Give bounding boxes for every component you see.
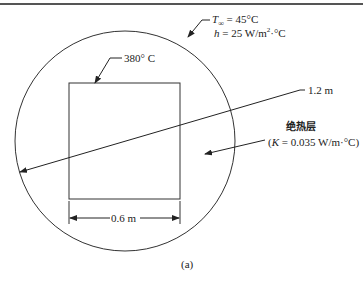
diameter-label: 1.2 m bbox=[308, 85, 333, 96]
surface-temp-label: 380° C bbox=[124, 53, 155, 64]
surface-temp-leader-arrow bbox=[95, 58, 122, 83]
width-label: 0.6 m bbox=[111, 213, 136, 224]
conductivity-label: (K = 0.035 W/m·°C) bbox=[268, 137, 359, 148]
insulation-label-cn: 绝热层 bbox=[286, 122, 316, 132]
figure-caption: (a) bbox=[181, 259, 193, 270]
t-inf-leader-arrow bbox=[188, 20, 210, 37]
heat-transfer-coeff-label: h = 25 W/m2·°C bbox=[214, 27, 286, 39]
diameter-line bbox=[20, 90, 300, 172]
